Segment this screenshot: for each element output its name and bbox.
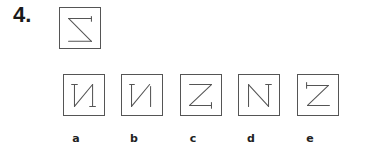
- z-bottom-tick-icon: [181, 75, 221, 115]
- option-e-label[interactable]: e: [300, 132, 320, 145]
- option-a-box[interactable]: [63, 74, 105, 116]
- option-d-label[interactable]: d: [241, 132, 261, 145]
- option-e-box[interactable]: [297, 74, 339, 116]
- option-c-label[interactable]: c: [183, 132, 203, 145]
- option-c-box[interactable]: [180, 74, 222, 116]
- option-d-box[interactable]: [238, 74, 280, 116]
- sigma-figure-icon: [60, 8, 100, 48]
- z-top-tick-icon: [298, 75, 338, 115]
- option-b-box[interactable]: [121, 74, 163, 116]
- n-top-tick-icon: [239, 75, 279, 115]
- option-b-label[interactable]: b: [124, 132, 144, 145]
- mirrored-n-icon: [122, 75, 162, 115]
- mirrored-n-serif-icon: [64, 75, 104, 115]
- prompt-figure-box: [59, 7, 101, 49]
- question-number: 4.: [13, 2, 31, 28]
- option-a-label[interactable]: a: [66, 132, 86, 145]
